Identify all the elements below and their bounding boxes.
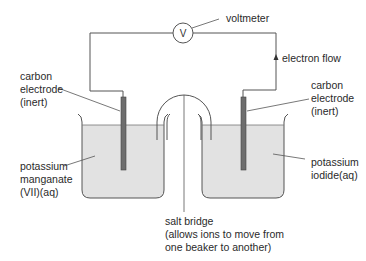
right-electrode [241,97,246,170]
right-solution-label: potassium iodide(aq) [311,156,359,182]
salt-bridge-label: salt bridge (allows ions to move from on… [165,215,284,254]
right-electrode-label: carbon electrode (inert) [311,79,354,118]
electron-flow-arrow-icon [274,54,279,60]
right-wire [193,33,276,97]
voltmeter-label: voltmeter [226,12,269,25]
left-electrode-label: carbon electrode (inert) [20,70,63,109]
left-electrode [121,97,126,170]
left-wire [90,33,173,97]
electron-flow-label: electron flow [282,52,341,65]
left-solution-label: potassium manganate (VII)(aq) [20,160,73,199]
svg-text:V: V [180,28,187,39]
